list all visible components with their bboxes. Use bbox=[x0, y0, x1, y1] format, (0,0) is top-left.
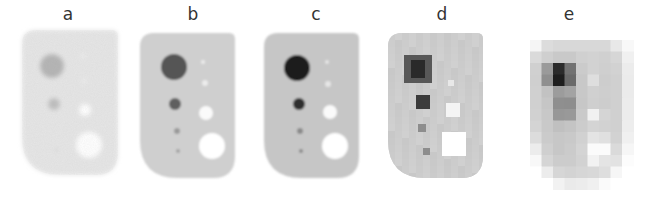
voxel bbox=[611, 144, 623, 156]
voxel bbox=[576, 40, 588, 52]
voxel bbox=[565, 75, 577, 87]
voxel bbox=[576, 167, 588, 179]
voxel bbox=[553, 121, 565, 133]
panel-label-b: b bbox=[188, 4, 199, 24]
voxel bbox=[565, 40, 577, 52]
voxel bbox=[611, 40, 623, 52]
voxel bbox=[576, 75, 588, 87]
phantom-body bbox=[140, 33, 235, 178]
voxel bbox=[599, 63, 611, 75]
cold-sphere bbox=[448, 80, 454, 86]
voxel bbox=[611, 86, 623, 98]
cold-sphere bbox=[199, 133, 225, 159]
voxel bbox=[530, 132, 542, 144]
hot-sphere bbox=[161, 54, 187, 80]
voxel bbox=[530, 63, 542, 75]
hot-sphere bbox=[299, 149, 303, 153]
voxel bbox=[565, 63, 577, 75]
voxel bbox=[565, 178, 577, 190]
voxel bbox=[542, 132, 554, 144]
voxel bbox=[622, 132, 634, 144]
cold-sphere bbox=[199, 106, 213, 120]
voxel bbox=[576, 132, 588, 144]
voxel bbox=[553, 63, 565, 75]
voxel bbox=[530, 121, 542, 133]
voxel bbox=[542, 40, 554, 52]
panel-e bbox=[530, 40, 634, 190]
voxel bbox=[565, 86, 577, 98]
voxel bbox=[542, 98, 554, 110]
voxel bbox=[530, 86, 542, 98]
voxel bbox=[553, 75, 565, 87]
voxel bbox=[530, 155, 542, 167]
voxel bbox=[622, 109, 634, 121]
voxel bbox=[542, 121, 554, 133]
hot-sphere bbox=[411, 60, 425, 78]
cold-sphere bbox=[322, 133, 348, 159]
voxel bbox=[599, 109, 611, 121]
voxel bbox=[553, 144, 565, 156]
voxel bbox=[611, 52, 623, 64]
hot-sphere bbox=[416, 95, 430, 109]
voxel bbox=[542, 109, 554, 121]
voxel bbox=[565, 132, 577, 144]
voxel bbox=[542, 144, 554, 156]
voxel bbox=[553, 52, 565, 64]
voxel bbox=[611, 98, 623, 110]
voxel bbox=[576, 121, 588, 133]
voxel bbox=[542, 63, 554, 75]
voxel bbox=[622, 155, 634, 167]
voxel bbox=[576, 86, 588, 98]
voxel bbox=[622, 144, 634, 156]
panel-c bbox=[264, 33, 359, 178]
panel-d bbox=[388, 33, 486, 180]
voxel bbox=[611, 75, 623, 87]
cold-sphere bbox=[442, 132, 466, 156]
voxel bbox=[588, 132, 600, 144]
voxel bbox=[565, 167, 577, 179]
hot-sphere bbox=[284, 55, 310, 81]
panel-b bbox=[140, 33, 235, 178]
voxel bbox=[530, 109, 542, 121]
voxel bbox=[576, 178, 588, 190]
cold-sphere bbox=[325, 60, 329, 64]
voxel bbox=[599, 40, 611, 52]
voxel bbox=[530, 98, 542, 110]
hot-sphere bbox=[293, 98, 305, 110]
voxel bbox=[542, 75, 554, 87]
voxel bbox=[553, 109, 565, 121]
voxel bbox=[599, 86, 611, 98]
voxel bbox=[599, 75, 611, 87]
voxel bbox=[565, 144, 577, 156]
voxel bbox=[588, 144, 600, 156]
voxel bbox=[542, 178, 554, 190]
voxel bbox=[530, 52, 542, 64]
hot-sphere bbox=[169, 98, 181, 110]
voxel bbox=[588, 109, 600, 121]
hot-sphere bbox=[423, 148, 430, 155]
voxel bbox=[565, 155, 577, 167]
voxel bbox=[599, 121, 611, 133]
cold-sphere bbox=[201, 60, 205, 64]
voxel bbox=[542, 155, 554, 167]
voxel bbox=[530, 75, 542, 87]
hot-sphere bbox=[418, 124, 426, 132]
voxel bbox=[599, 167, 611, 179]
voxel bbox=[599, 98, 611, 110]
voxel bbox=[599, 178, 611, 190]
voxel bbox=[588, 167, 600, 179]
voxel bbox=[622, 63, 634, 75]
voxel bbox=[565, 52, 577, 64]
voxel bbox=[588, 40, 600, 52]
voxel bbox=[565, 109, 577, 121]
voxel bbox=[576, 63, 588, 75]
voxel bbox=[599, 155, 611, 167]
voxel bbox=[553, 167, 565, 179]
voxel bbox=[599, 52, 611, 64]
voxel bbox=[576, 155, 588, 167]
voxel bbox=[622, 86, 634, 98]
voxel bbox=[611, 121, 623, 133]
hot-sphere bbox=[176, 149, 180, 153]
voxel bbox=[611, 155, 623, 167]
voxel bbox=[599, 132, 611, 144]
